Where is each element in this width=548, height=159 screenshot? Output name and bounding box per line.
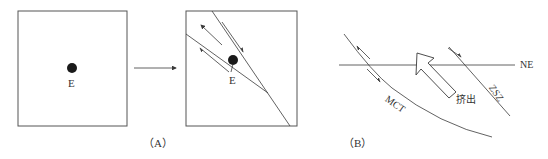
mct-fault-curve <box>344 34 492 137</box>
panel-b-diagram <box>339 34 515 137</box>
point-label-after: E <box>229 75 236 86</box>
point-label-before: E <box>68 78 75 89</box>
mct-slip-arrow-up <box>357 46 370 59</box>
fault-line-steep <box>212 11 290 126</box>
ne-axis-label: NE <box>520 60 533 70</box>
panel-a-after-box <box>186 11 297 126</box>
diagram-canvas <box>0 0 548 159</box>
zsz-fault-line <box>449 47 510 116</box>
extrusion-hollow-arrow-icon <box>416 53 456 98</box>
zsz-slip-arrow <box>448 48 461 57</box>
slip-arrow-shallow <box>200 48 229 72</box>
epicenter-dot <box>67 63 77 73</box>
epicenter-dot-shifted <box>228 55 238 65</box>
caption-b: （B） <box>343 138 372 149</box>
extrusion-label: 挤出 <box>456 95 476 105</box>
fault-line-shallow <box>186 34 268 93</box>
slip-arrow-steep <box>222 22 243 52</box>
extrusion-arrow-a <box>201 25 222 45</box>
panel-a-before-box <box>18 11 127 126</box>
caption-a: （A） <box>143 138 173 149</box>
